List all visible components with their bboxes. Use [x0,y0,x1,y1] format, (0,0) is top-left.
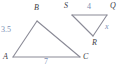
triangle-sqr [72,15,107,36]
triangle-abc [13,21,80,57]
vertex-label-b: B [34,4,39,12]
vertex-label-c: C [83,53,88,61]
vertex-label-r: R [92,39,97,47]
side-length-qr-unknown: x [105,23,109,31]
side-bc [37,21,80,57]
triangles-svg [0,0,123,69]
vertex-label-q: Q [110,2,116,10]
geometry-figure: A B C 3.5 7 S Q R 4 x [0,0,123,69]
vertex-label-a: A [3,53,8,61]
side-sr [72,15,93,36]
side-length-ab: 3.5 [1,26,11,34]
vertex-label-s: S [64,2,68,10]
side-length-sq: 4 [87,3,91,11]
side-ab [13,21,37,57]
side-length-ac: 7 [44,58,48,66]
